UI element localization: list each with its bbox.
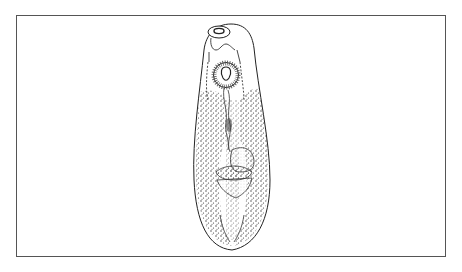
trematode-illustration (0, 0, 462, 272)
oral-sucker (208, 26, 230, 38)
ventral-sucker (214, 63, 239, 88)
